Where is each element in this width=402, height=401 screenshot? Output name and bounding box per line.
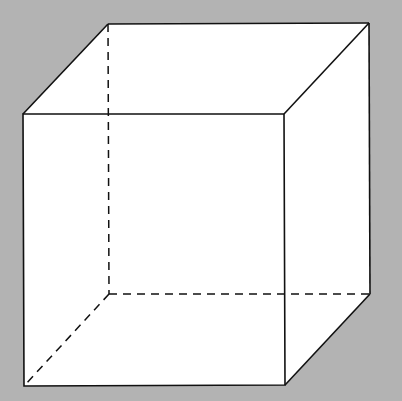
cube-diagram	[0, 0, 402, 401]
edge-back-right	[369, 23, 370, 294]
edge-back-top	[108, 23, 369, 24]
cube-svg	[0, 0, 402, 401]
